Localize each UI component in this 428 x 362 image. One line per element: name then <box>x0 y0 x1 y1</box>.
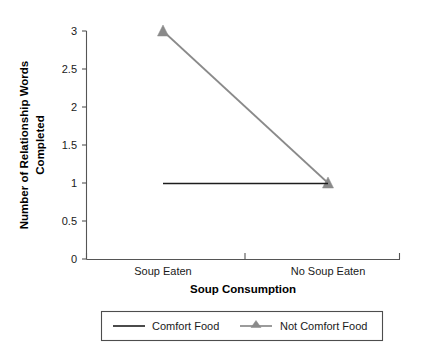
x-axis: Soup Eaten No Soup Eaten <box>87 253 401 277</box>
chart-canvas: 3 2.5 2 1.5 1 0.5 0 Number of Relationsh… <box>0 0 428 362</box>
marker-not-comfort-food-soup-eaten <box>158 25 169 36</box>
line-chart-figure: 3 2.5 2 1.5 1 0.5 0 Number of Relationsh… <box>0 0 428 362</box>
y-axis-title: Number of Relationship Words Completed <box>18 61 46 229</box>
y-tick-label-2.5: 2.5 <box>62 63 77 75</box>
y-tick-label-1.5: 1.5 <box>62 139 77 151</box>
x-tick-label-no-soup-eaten: No Soup Eaten <box>291 265 366 277</box>
y-tick-label-0: 0 <box>71 253 77 265</box>
y-tick-label-2: 2 <box>71 101 77 113</box>
legend-label-not-comfort-food: Not Comfort Food <box>280 320 367 332</box>
x-axis-title: Soup Consumption <box>190 283 296 295</box>
y-tick-label-0.5: 0.5 <box>62 215 77 227</box>
y-axis: 3 2.5 2 1.5 1 0.5 0 <box>62 25 87 265</box>
chart-legend: Comfort Food Not Comfort Food <box>102 312 383 341</box>
y-tick-label-3: 3 <box>71 25 77 37</box>
series-not-comfort-food <box>158 25 334 188</box>
y-axis-title-line2: Completed <box>34 115 46 174</box>
series-line-not-comfort-food <box>163 31 328 183</box>
x-tick-label-soup-eaten: Soup Eaten <box>134 265 192 277</box>
y-tick-label-1: 1 <box>71 177 77 189</box>
legend-label-comfort-food: Comfort Food <box>152 320 219 332</box>
y-axis-title-line1: Number of Relationship Words <box>18 61 30 229</box>
